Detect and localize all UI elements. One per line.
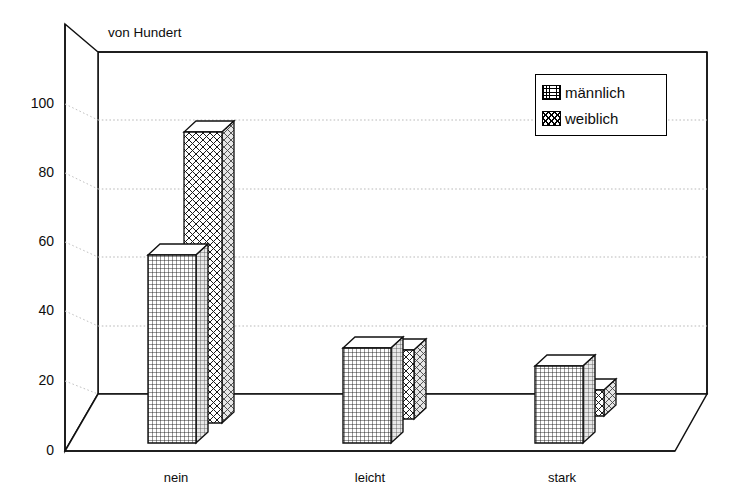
- y-tick-0: 0: [8, 443, 54, 457]
- y-tick-80: 80: [8, 165, 54, 179]
- bar-maennlich-leicht[interactable]: [343, 337, 403, 443]
- chart-container: von Hundert 100 80 60 40 20 0 nein leich…: [0, 0, 738, 504]
- legend-swatch-maennlich-icon: [542, 85, 561, 100]
- x-category-stark: stark: [522, 471, 602, 484]
- x-category-nein: nein: [136, 471, 216, 484]
- legend: männlich weiblich: [535, 74, 667, 136]
- legend-item-weiblich[interactable]: weiblich: [542, 106, 618, 130]
- bar-maennlich-stark[interactable]: [535, 355, 595, 443]
- y-tick-20: 20: [8, 373, 54, 387]
- y-tick-100: 100: [8, 96, 54, 110]
- y-tick-40: 40: [8, 303, 54, 317]
- legend-label-maennlich: männlich: [565, 85, 625, 100]
- legend-swatch-weiblich-icon: [542, 111, 561, 126]
- legend-item-maennlich[interactable]: männlich: [542, 80, 625, 104]
- legend-label-weiblich: weiblich: [565, 111, 618, 126]
- x-category-leicht: leicht: [330, 471, 410, 484]
- bar-maennlich-nein[interactable]: [148, 244, 208, 443]
- unit-label: von Hundert: [108, 26, 182, 40]
- y-tick-60: 60: [8, 234, 54, 248]
- left-wall: [65, 24, 98, 451]
